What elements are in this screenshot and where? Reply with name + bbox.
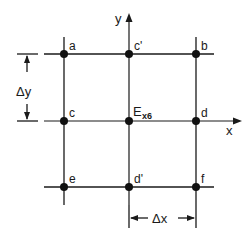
node-b xyxy=(192,50,200,58)
label-f: f xyxy=(201,172,205,186)
delta-y-label: Δy xyxy=(16,84,32,99)
label-b: b xyxy=(201,39,208,53)
label-c-prime: c' xyxy=(134,39,142,53)
node-d-prime xyxy=(125,183,133,191)
node-e xyxy=(60,183,68,191)
finite-difference-grid-diagram: x y a c' b c E x6 d e d' f Δy Δx xyxy=(0,0,251,236)
delta-x-arrow-right-icon xyxy=(187,215,195,221)
delta-y-arrow-up-icon xyxy=(24,55,30,63)
label-e: e xyxy=(69,172,76,186)
delta-x-arrow-left-icon xyxy=(130,215,138,221)
x-axis-arrow-icon xyxy=(233,118,242,125)
label-E-subscript: x6 xyxy=(142,111,152,121)
label-E: E xyxy=(133,104,142,119)
delta-x-label: Δx xyxy=(152,211,168,226)
delta-x-dimension: Δx xyxy=(129,205,196,228)
y-axis-arrow-icon xyxy=(126,13,133,22)
node-a xyxy=(60,50,68,58)
node-f xyxy=(192,183,200,191)
delta-y-arrow-down-icon xyxy=(24,112,30,120)
label-d: d xyxy=(201,106,208,120)
node-d xyxy=(192,117,200,125)
x-axis-label: x xyxy=(226,123,233,138)
label-c: c xyxy=(69,106,75,120)
node-c xyxy=(60,117,68,125)
label-a: a xyxy=(69,39,76,53)
y-axis-label: y xyxy=(115,11,122,26)
node-c-prime xyxy=(125,50,133,58)
label-d-prime: d' xyxy=(134,172,143,186)
delta-y-dimension: Δy xyxy=(16,54,38,121)
y-axis: y xyxy=(115,11,133,205)
node-E xyxy=(125,117,133,125)
